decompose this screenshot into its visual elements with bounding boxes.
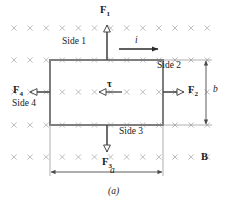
field-cross-icon [44,154,49,159]
side-4-label: Side 4 [12,99,36,109]
field-cross-icon [11,122,16,127]
field-cross-icon [156,25,161,30]
side-2-label: Side 2 [157,61,181,71]
dimension-b-label: b [213,85,218,95]
field-cross-icon [140,154,145,159]
field-cross-icon [28,154,33,159]
side-1-label: Side 1 [62,37,86,47]
field-cross-icon [156,89,161,94]
current-i-label: i [135,36,138,46]
field-cross-icon [28,57,33,62]
figure-magnetic-torque-loop: F1 F2 F3 F4 B τ i Side 1 Side 2 Side 3 S… [0,0,230,203]
field-cross-icon [60,154,65,159]
field-cross-icon [124,25,129,30]
field-cross-icon [205,89,210,94]
field-cross-icon [189,154,194,159]
field-cross-icon [124,89,129,94]
field-cross-icon [11,57,16,62]
field-cross-icon [11,25,16,30]
torque-tau-label: τ [107,79,112,90]
field-cross-icon [44,122,49,127]
force-f4-label: F4 [13,85,23,98]
field-cross-icon [140,89,145,94]
field-cross-icon [205,25,210,30]
field-cross-icon [76,89,81,94]
field-cross-icon [11,154,16,159]
force-f1-label: F1 [100,5,110,18]
field-cross-icon [44,25,49,30]
field-cross-icon [140,25,145,30]
field-cross-icon [172,25,177,30]
field-cross-icon [108,25,113,30]
magnetic-field-b-label: B [201,152,208,163]
field-cross-icon [28,25,33,30]
field-cross-icon [28,122,33,127]
field-cross-icon [60,25,65,30]
figure-caption: (a) [108,187,119,197]
side-3-label: Side 3 [119,127,143,137]
field-cross-icon [92,89,97,94]
field-cross-icon [189,25,194,30]
field-cross-icon [124,154,129,159]
force-f2-label: F2 [188,85,198,98]
field-cross-icon [76,154,81,159]
field-cross-icon [92,25,97,30]
dimension-a-label: a [110,166,115,176]
field-cross-icon [92,154,97,159]
field-cross-icon [172,154,177,159]
field-cross-icon [156,154,161,159]
field-cross-icon [44,57,49,62]
field-cross-icon [60,89,65,94]
field-cross-icon [76,25,81,30]
